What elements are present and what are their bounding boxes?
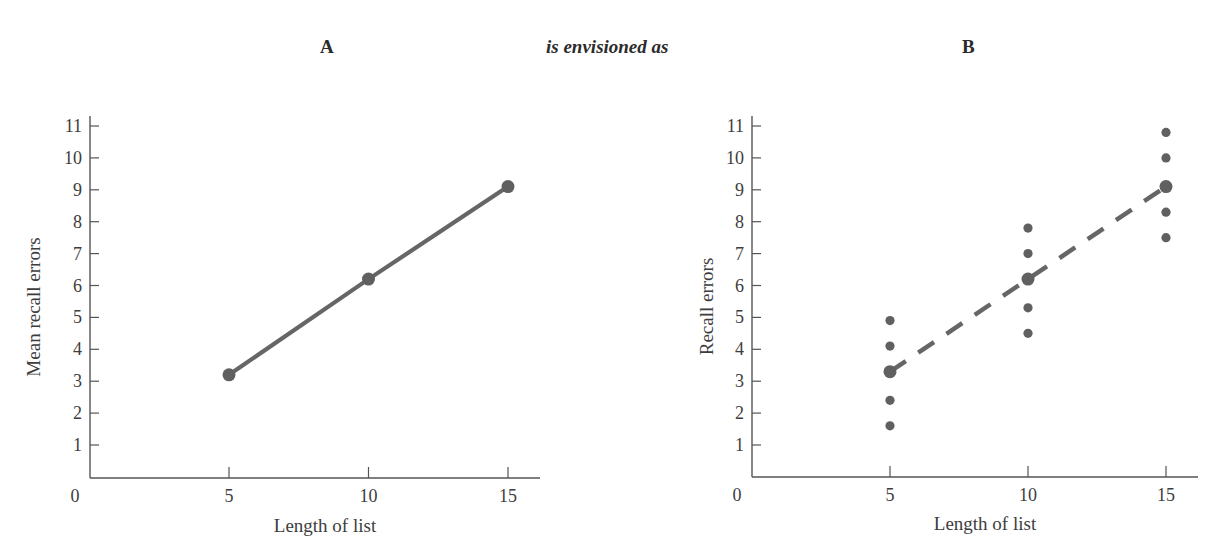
chart-canvas: 1234567891011510150Length of listMean re… — [0, 0, 1218, 557]
y-tick-label: 11 — [65, 116, 82, 136]
x-tick-label: 5 — [886, 485, 895, 505]
data-point — [885, 342, 894, 351]
y-axis-label: Recall errors — [696, 258, 717, 356]
x-tick-label: 5 — [225, 486, 234, 506]
data-point — [1161, 153, 1170, 162]
data-point — [885, 316, 894, 325]
y-tick-label: 3 — [73, 371, 82, 391]
mean-point — [502, 180, 515, 193]
y-tick-label: 4 — [735, 339, 744, 359]
data-point — [885, 421, 894, 430]
data-point — [1161, 208, 1170, 217]
y-tick-label: 8 — [73, 212, 82, 232]
chart-a: 1234567891011510150Length of listMean re… — [23, 116, 540, 536]
x-tick-label: 10 — [360, 486, 378, 506]
y-tick-label: 7 — [73, 244, 82, 264]
data-point — [1161, 128, 1170, 137]
y-tick-label: 10 — [726, 148, 744, 168]
y-tick-label: 9 — [735, 180, 744, 200]
y-axis-label: Mean recall errors — [23, 237, 44, 376]
y-tick-label: 2 — [73, 403, 82, 423]
x-axis-label: Length of list — [934, 513, 1037, 534]
y-tick-label: 11 — [727, 116, 744, 136]
data-point — [1023, 329, 1032, 338]
mean-point — [1022, 273, 1035, 286]
x-tick-label: 10 — [1019, 485, 1037, 505]
y-tick-label: 1 — [73, 435, 82, 455]
x-tick-label: 15 — [1157, 485, 1175, 505]
x-tick-label: 15 — [499, 486, 517, 506]
y-tick-label: 6 — [73, 276, 82, 296]
data-point — [1023, 249, 1032, 258]
y-tick-label: 2 — [735, 403, 744, 423]
chart-b: 1234567891011510150Length of listRecall … — [696, 116, 1198, 534]
y-tick-label: 3 — [735, 371, 744, 391]
origin-label: 0 — [71, 486, 80, 506]
y-tick-label: 9 — [73, 180, 82, 200]
y-tick-label: 7 — [735, 244, 744, 264]
y-tick-label: 10 — [64, 148, 82, 168]
mean-point — [362, 273, 375, 286]
mean-point — [1160, 180, 1173, 193]
y-tick-label: 5 — [73, 307, 82, 327]
y-tick-label: 5 — [735, 307, 744, 327]
mean-point — [223, 368, 236, 381]
y-tick-label: 8 — [735, 212, 744, 232]
origin-label: 0 — [733, 485, 742, 505]
data-point — [885, 396, 894, 405]
data-point — [1023, 303, 1032, 312]
x-axis-label: Length of list — [274, 515, 377, 536]
data-point — [1161, 233, 1170, 242]
y-tick-label: 1 — [735, 435, 744, 455]
y-tick-label: 4 — [73, 339, 82, 359]
mean-point — [884, 365, 897, 378]
y-tick-label: 6 — [735, 276, 744, 296]
data-point — [1023, 223, 1032, 232]
